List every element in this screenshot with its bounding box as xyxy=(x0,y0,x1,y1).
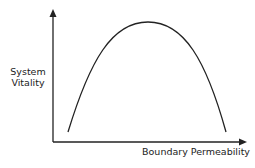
x-axis-label: Boundary Permeability xyxy=(140,146,250,157)
y-axis-label-line1: System xyxy=(4,66,52,77)
x-axis-arrowhead-icon xyxy=(239,139,247,146)
y-axis-label: System Vitality xyxy=(4,66,52,88)
vitality-curve xyxy=(68,22,226,132)
y-axis-arrowhead-icon xyxy=(50,9,57,17)
y-axis-label-line2: Vitality xyxy=(4,77,52,88)
